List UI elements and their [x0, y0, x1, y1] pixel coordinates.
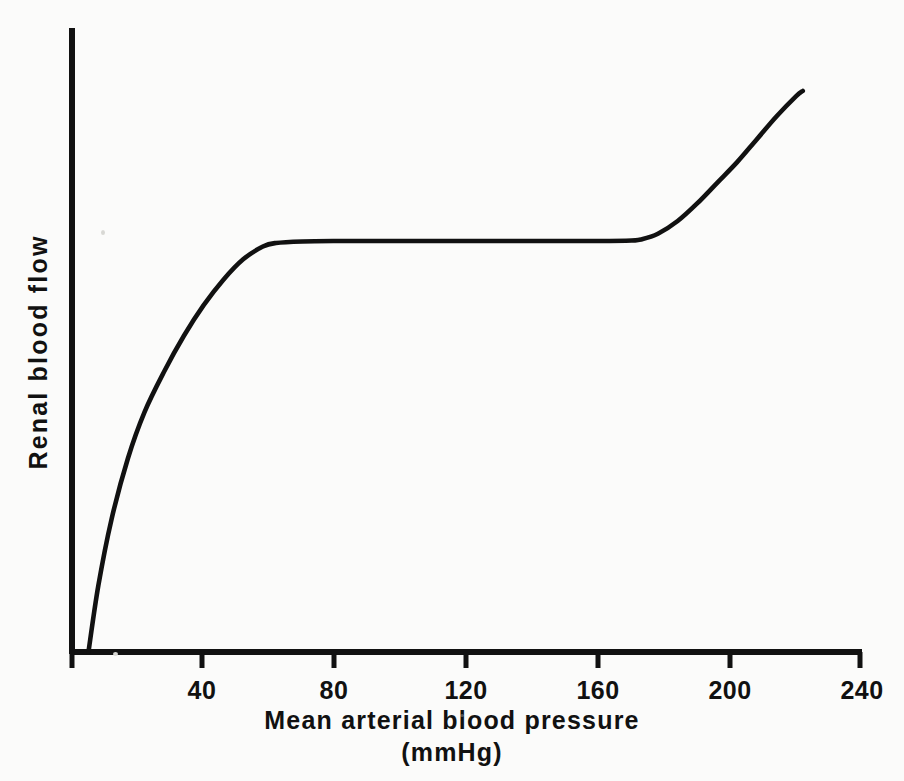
x-axis-title: Mean arterial blood pressure (mmHg) — [0, 704, 904, 768]
x-axis-title-unit: (mmHg) — [0, 736, 904, 768]
x-tick-label-120: 120 — [444, 678, 487, 703]
chart-figure: 40 80 120 160 200 240 Renal blood flow M… — [0, 0, 904, 781]
x-tick-label-200: 200 — [708, 678, 751, 703]
chart-plot-area — [0, 0, 904, 781]
x-tick-label-40: 40 — [188, 678, 217, 703]
x-axis-title-main: Mean arterial blood pressure — [264, 706, 639, 734]
renal-blood-flow-curve — [88, 91, 802, 652]
y-axis-title: Renal blood flow — [26, 234, 51, 469]
x-tick-label-240: 240 — [840, 678, 883, 703]
x-tick-label-160: 160 — [576, 678, 619, 703]
x-tick-label-80: 80 — [320, 678, 349, 703]
